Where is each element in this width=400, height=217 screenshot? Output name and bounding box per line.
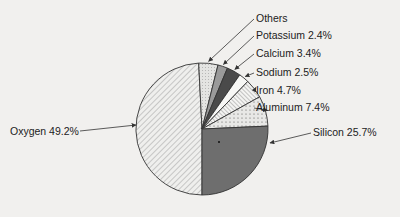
- label-others: Others: [256, 12, 288, 24]
- silicon-marker-dot: [218, 141, 220, 143]
- callout-arrow-potassium: [223, 36, 254, 65]
- callout-arrow-calcium: [235, 54, 254, 69]
- label-aluminum: Aluminum 7.4%: [256, 101, 330, 113]
- pie-slices: [136, 63, 268, 195]
- callout-arrow-others: [209, 19, 254, 61]
- label-silicon: Silicon 25.7%: [313, 126, 377, 138]
- pie-slice-oxygen: [136, 63, 202, 195]
- callout-arrow-silicon: [270, 133, 311, 143]
- label-calcium: Calcium 3.4%: [256, 47, 321, 59]
- callout-arrow-oxygen: [80, 125, 136, 131]
- chart-figure: Others Potassium 2.4% Calcium 3.4% Sodiu…: [0, 0, 400, 217]
- label-iron: Iron 4.7%: [256, 84, 301, 96]
- pie-slice-silicon: [202, 126, 268, 195]
- pie-chart: Others Potassium 2.4% Calcium 3.4% Sodiu…: [0, 0, 400, 217]
- callout-arrow-sodium: [245, 73, 254, 77]
- label-potassium: Potassium 2.4%: [256, 29, 332, 41]
- label-oxygen: Oxygen 49.2%: [10, 125, 79, 137]
- label-sodium: Sodium 2.5%: [256, 66, 318, 78]
